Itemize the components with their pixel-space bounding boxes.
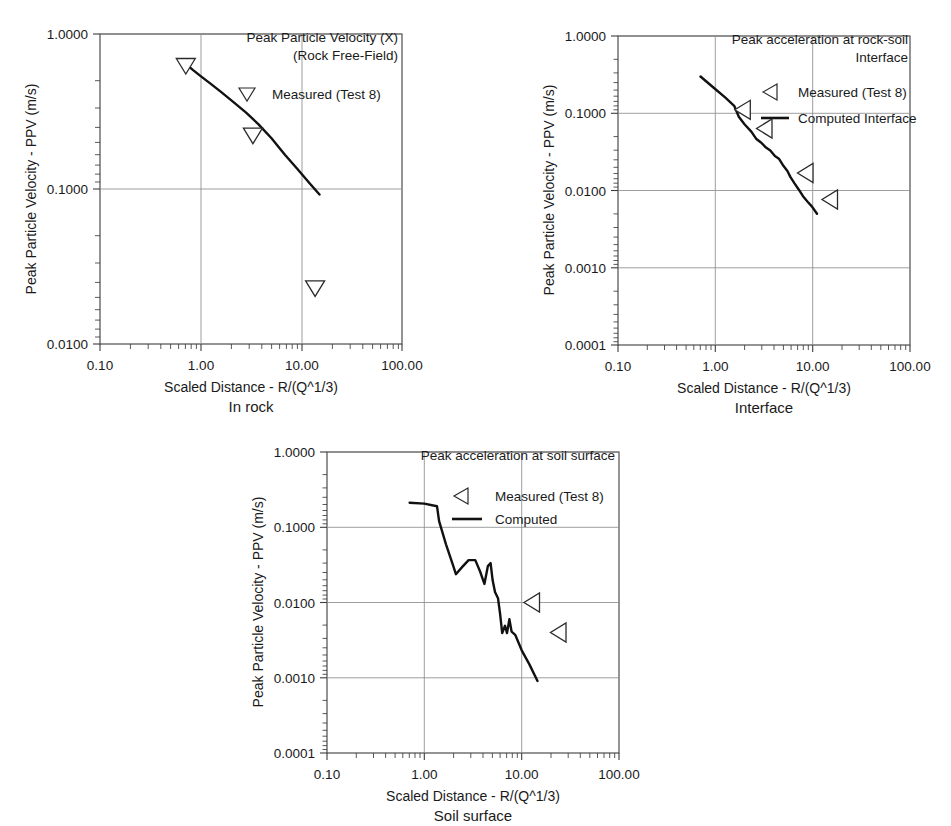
x-tick-label: 10.00 — [505, 767, 539, 782]
x-tick-labels-in-rock: 0.10 1.00 10.00 100.00 — [87, 358, 423, 373]
y-tick-label: 0.0001 — [565, 338, 606, 353]
y-ticks-soil-surface — [320, 452, 327, 753]
x-tick-label: 1.00 — [411, 767, 437, 782]
chart-panel-soil-surface: 1.0000 0.1000 0.0100 0.0010 0.0001 0.10 … — [230, 420, 730, 826]
x-ticks-soil-surface — [327, 753, 619, 760]
chart-title-line2: Interface — [855, 50, 908, 65]
y-axis-title: Peak Particle Velocity - PPV (m/s) — [541, 85, 557, 296]
y-tick-label: 0.0100 — [565, 184, 606, 199]
measured-marker — [176, 59, 195, 75]
y-ticks-interface — [611, 36, 618, 345]
measured-marker — [757, 119, 773, 138]
chart-title-interface: Peak acceleration at rock-soil Interface — [732, 32, 908, 65]
figure-root: 1.0000 0.1000 0.0100 0.10 1.00 10.00 100… — [0, 0, 951, 826]
x-tick-labels-interface: 0.10 1.00 10.00 100.00 — [605, 359, 931, 374]
chart-title-line1: Peak Particle Velocity (X) — [246, 30, 398, 45]
legend-label: Measured (Test 8) — [272, 87, 381, 102]
y-axis-title: Peak Particle Velocity - PPV (m/s) — [23, 84, 39, 295]
x-axis-title: Scaled Distance - R/(Q^1/3) — [164, 379, 338, 395]
chart-panel-in-rock: 1.0000 0.1000 0.0100 0.10 1.00 10.00 100… — [0, 0, 470, 420]
triangle-left-icon — [763, 84, 777, 100]
y-tick-label: 0.1000 — [565, 106, 606, 121]
x-tick-label: 0.10 — [87, 358, 113, 373]
y-tick-label: 0.0010 — [565, 261, 606, 276]
gridlines-interface — [618, 36, 910, 345]
measured-marker — [822, 190, 838, 209]
y-tick-label: 0.0100 — [274, 596, 315, 611]
y-tick-label: 1.0000 — [274, 445, 315, 460]
x-ticks-interface — [618, 345, 910, 352]
y-tick-label: 0.1000 — [47, 182, 88, 197]
x-tick-label: 1.00 — [702, 359, 728, 374]
x-tick-label: 10.00 — [796, 359, 830, 374]
chart-title-line1: Peak acceleration at soil surface — [421, 448, 615, 463]
x-tick-labels-soil-surface: 0.10 1.00 10.00 100.00 — [314, 767, 640, 782]
computed-curve — [410, 503, 538, 681]
chart-title-in-rock: Peak Particle Velocity (X) (Rock Free-Fi… — [246, 30, 398, 63]
x-ticks-in-rock — [100, 344, 402, 351]
series-soil-surface — [410, 503, 566, 681]
triangle-left-icon — [454, 488, 468, 504]
chart-title-line2: (Rock Free-Field) — [293, 48, 398, 63]
measured-marker — [798, 164, 814, 183]
x-axis-title: Scaled Distance - R/(Q^1/3) — [386, 788, 560, 804]
y-tick-label: 1.0000 — [565, 29, 606, 44]
panel-caption: Interface — [735, 399, 793, 416]
legend-in-rock: Measured (Test 8) — [239, 87, 381, 102]
chart-panel-interface: 1.0000 0.1000 0.0100 0.0010 0.0001 0.10 … — [480, 0, 951, 420]
measured-marker — [306, 281, 325, 297]
y-axis-title: Peak Particle Velocity - PPV (m/s) — [250, 497, 266, 708]
legend-soil-surface: Measured (Test 8) Computed — [452, 488, 604, 527]
x-tick-label: 10.00 — [285, 358, 319, 373]
y-tick-labels-interface: 1.0000 0.1000 0.0100 0.0010 0.0001 — [565, 29, 606, 353]
legend-label: Measured (Test 8) — [495, 489, 604, 504]
y-tick-labels-soil-surface: 1.0000 0.1000 0.0100 0.0010 0.0001 — [274, 445, 315, 761]
legend-interface: Measured (Test 8) Computed Interface — [761, 84, 917, 126]
x-tick-label: 1.00 — [188, 358, 214, 373]
chart-title-line1: Peak acceleration at rock-soil — [732, 32, 908, 47]
measured-marker — [524, 593, 540, 612]
panel-caption: Soil surface — [434, 807, 512, 824]
y-tick-labels-in-rock: 1.0000 0.1000 0.0100 — [47, 27, 88, 352]
measured-marker — [735, 100, 751, 119]
legend-label: Computed — [495, 512, 557, 527]
x-tick-label: 0.10 — [605, 359, 631, 374]
triangle-down-icon — [239, 88, 255, 101]
x-tick-label: 100.00 — [889, 359, 930, 374]
legend-label: Computed Interface — [798, 111, 917, 126]
x-tick-label: 100.00 — [381, 358, 422, 373]
y-ticks-in-rock — [93, 34, 100, 344]
legend-label: Measured (Test 8) — [798, 85, 907, 100]
y-tick-label: 1.0000 — [47, 27, 88, 42]
gridlines-in-rock — [100, 34, 402, 344]
x-axis-title: Scaled Distance - R/(Q^1/3) — [677, 380, 851, 396]
y-tick-label: 0.0001 — [274, 746, 315, 761]
y-tick-label: 0.1000 — [274, 520, 315, 535]
panel-caption: In rock — [228, 398, 274, 415]
x-tick-label: 100.00 — [598, 767, 639, 782]
y-tick-label: 0.0010 — [274, 671, 315, 686]
x-tick-label: 0.10 — [314, 767, 340, 782]
measured-marker — [243, 128, 262, 144]
y-tick-label: 0.0100 — [47, 337, 88, 352]
measured-marker — [551, 623, 567, 642]
